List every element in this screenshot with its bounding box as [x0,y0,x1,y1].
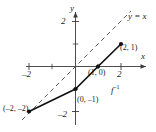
x-axis [26,63,146,70]
point-label-neg2-neg2: (–2, –2) [3,105,28,113]
inverse-function-graph-figure: –2 2 2 –2 x y (2, 1) (1, 0) (0, –1) (–2,… [0,0,156,132]
point-label-0-neg1: (0, –1) [77,96,98,104]
x-axis-label: x [141,52,145,61]
inverse-function-label: f–1 [111,84,120,95]
x-axis-tick-label-neg2: –2 [22,70,31,79]
y-axis-label: y [70,4,74,13]
point-label-2-1: (2, 1) [120,44,137,52]
y-axis-tick-label-neg2: –2 [58,110,67,119]
inverse-function-exponent: –1 [114,84,120,90]
point-label-1-0: (1, 0) [88,69,105,77]
inverse-function-curve [29,44,121,112]
data-point-0-neg1 [73,87,77,91]
y-axis-tick-label-pos2: 2 [61,17,66,26]
identity-line-label: y = x [128,12,147,21]
x-axis-tick-label-pos2: 2 [117,70,122,79]
